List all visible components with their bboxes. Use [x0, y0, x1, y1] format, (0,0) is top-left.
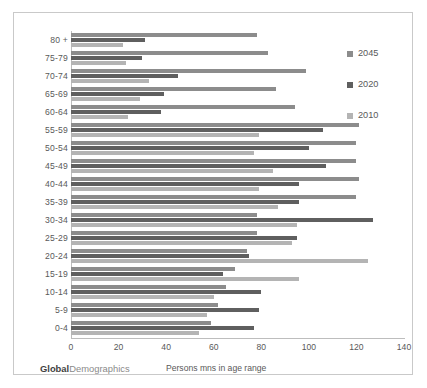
- y-axis-label: 75-79: [22, 53, 68, 63]
- y-axis-label: 35-39: [22, 197, 68, 207]
- watermark-bold: Global: [40, 363, 69, 374]
- legend-swatch-icon: [347, 51, 353, 57]
- bar-2045-35-39: [71, 195, 356, 200]
- y-axis-label: 60-64: [22, 107, 68, 117]
- bar-2045-70-74: [71, 69, 306, 74]
- bar-2010-25-29: [71, 241, 292, 246]
- x-tick-label: 120: [349, 342, 363, 352]
- bar-2045-80: [71, 33, 257, 38]
- bar-2020-5-9: [71, 308, 259, 313]
- x-tick-label: 0: [69, 342, 74, 352]
- bar-2045-55-59: [71, 123, 359, 128]
- legend-label: 2045: [358, 49, 378, 58]
- bar-2020-60-64: [71, 110, 161, 115]
- bar-2010-0-4: [71, 331, 199, 336]
- y-axis-label: 40-44: [22, 179, 68, 189]
- bar-2045-5-9: [71, 303, 218, 308]
- bar-group: [71, 301, 404, 319]
- legend-label: 2020: [358, 80, 378, 89]
- bar-2010-70-74: [71, 79, 149, 84]
- bar-group: [71, 211, 404, 229]
- bar-2010-30-34: [71, 223, 297, 228]
- bar-2020-15-19: [71, 272, 223, 277]
- bar-group: [71, 319, 404, 337]
- bar-2020-55-59: [71, 128, 323, 133]
- bar-group: [71, 31, 404, 49]
- x-axis-title: Persons mns in age range: [166, 363, 266, 373]
- bar-2010-80: [71, 43, 123, 48]
- y-axis-label: 25-29: [22, 233, 68, 243]
- bar-2020-35-39: [71, 200, 299, 205]
- legend-item-2020[interactable]: 2020: [347, 80, 417, 111]
- legend-swatch-icon: [347, 113, 353, 119]
- watermark-light: Demographics: [69, 363, 129, 374]
- bar-2045-25-29: [71, 231, 257, 236]
- x-tick-label: 100: [302, 342, 316, 352]
- bar-group: [71, 265, 404, 283]
- legend-label: 2010: [358, 111, 378, 120]
- bar-group: [71, 247, 404, 265]
- bar-2010-20-24: [71, 259, 368, 264]
- bar-2010-45-49: [71, 169, 273, 174]
- bar-2045-60-64: [71, 105, 295, 110]
- x-tick-label: 20: [114, 342, 124, 352]
- bar-2020-75-79: [71, 56, 142, 61]
- legend-swatch-icon: [347, 82, 353, 88]
- bar-2045-0-4: [71, 321, 211, 326]
- bar-2045-30-34: [71, 213, 257, 218]
- bar-2045-50-54: [71, 141, 356, 146]
- y-axis-label: 10-14: [22, 287, 68, 297]
- bar-2020-20-24: [71, 254, 249, 259]
- y-axis-label: 65-69: [22, 89, 68, 99]
- legend: 204520202010: [347, 49, 417, 142]
- bar-2010-55-59: [71, 133, 259, 138]
- bar-2010-40-44: [71, 187, 259, 192]
- watermark: GlobalDemographics: [40, 363, 130, 374]
- bar-2010-65-69: [71, 97, 140, 102]
- y-axis-category-labels: 80 +75-7970-7465-6960-6455-5950-5445-494…: [18, 31, 68, 337]
- bar-2045-10-14: [71, 285, 226, 290]
- chart-frame: 80 +75-7970-7465-6960-6455-5950-5445-494…: [13, 12, 413, 375]
- bar-2010-10-14: [71, 295, 214, 300]
- x-axis-line: [71, 338, 405, 339]
- y-axis-label: 0-4: [22, 323, 68, 333]
- bar-group: [71, 175, 404, 193]
- bar-group: [71, 229, 404, 247]
- bar-2020-65-69: [71, 92, 164, 97]
- bar-group: [71, 283, 404, 301]
- bar-2010-60-64: [71, 115, 128, 120]
- bar-2020-50-54: [71, 146, 309, 151]
- bar-2020-40-44: [71, 182, 299, 187]
- legend-item-2010[interactable]: 2010: [347, 111, 417, 142]
- bar-2020-80: [71, 38, 145, 43]
- bar-2045-65-69: [71, 87, 276, 92]
- bar-2045-45-49: [71, 159, 356, 164]
- y-axis-label: 70-74: [22, 71, 68, 81]
- bar-2020-45-49: [71, 164, 326, 169]
- bar-group: [71, 157, 404, 175]
- bar-2045-75-79: [71, 51, 268, 56]
- bar-2020-70-74: [71, 74, 178, 79]
- bar-2020-30-34: [71, 218, 373, 223]
- bar-group: [71, 193, 404, 211]
- x-axis-tick-labels: 020406080100120140: [71, 342, 405, 356]
- x-tick-label: 140: [397, 342, 411, 352]
- y-axis-label: 45-49: [22, 161, 68, 171]
- y-axis-label: 30-34: [22, 215, 68, 225]
- bar-2045-15-19: [71, 267, 235, 272]
- bar-2010-50-54: [71, 151, 254, 156]
- bar-2020-10-14: [71, 290, 261, 295]
- y-axis-label: 50-54: [22, 143, 68, 153]
- bar-2010-75-79: [71, 61, 126, 66]
- x-tick-label: 40: [161, 342, 171, 352]
- bar-2045-40-44: [71, 177, 359, 182]
- y-axis-label: 5-9: [22, 305, 68, 315]
- bar-2020-0-4: [71, 326, 254, 331]
- y-axis-label: 80 +: [22, 35, 68, 45]
- legend-item-2045[interactable]: 2045: [347, 49, 417, 80]
- x-tick-label: 60: [209, 342, 219, 352]
- y-axis-label: 55-59: [22, 125, 68, 135]
- bar-2010-15-19: [71, 277, 299, 282]
- x-tick-label: 80: [257, 342, 267, 352]
- bar-2010-5-9: [71, 313, 207, 318]
